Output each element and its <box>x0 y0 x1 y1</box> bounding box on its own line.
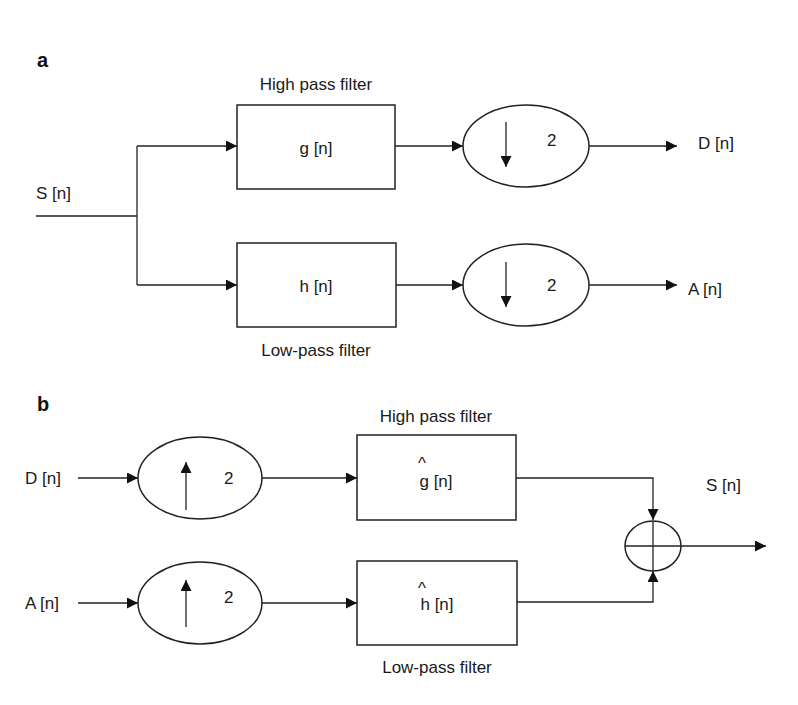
panel-b-reconstruction: b High pass filter D [n] A [n] 2 2 ^ g [… <box>25 393 766 677</box>
high-pass-caption-a: High pass filter <box>260 75 373 94</box>
detail-input-label: D [n] <box>25 469 61 488</box>
upsample-factor-top: 2 <box>224 469 233 488</box>
panel-a-label: a <box>37 49 49 71</box>
reconstructed-output-label: S [n] <box>706 476 741 495</box>
upsample-factor-bottom: 2 <box>224 588 233 607</box>
approx-output-label: A [n] <box>688 280 722 299</box>
low-pass-caption-b: Low-pass filter <box>382 658 492 677</box>
panel-b-label: b <box>37 393 49 415</box>
downsample-factor-bottom: 2 <box>547 276 556 295</box>
h-filter-label: h [n] <box>299 277 332 296</box>
upsampler-top: 2 <box>138 437 262 519</box>
detail-output-label: D [n] <box>698 134 734 153</box>
g-filter-label: g [n] <box>299 139 332 158</box>
approx-input-label: A [n] <box>25 594 59 613</box>
low-pass-caption-a: Low-pass filter <box>261 341 371 360</box>
downsampler-top: 2 <box>463 105 589 187</box>
adder-icon <box>625 521 681 571</box>
input-signal-label-a: S [n] <box>36 184 71 203</box>
upsampler-bottom: 2 <box>138 562 262 644</box>
downsample-factor-top: 2 <box>547 131 556 150</box>
g-hat-to-summer-line <box>516 478 653 520</box>
hat-accent: ^ <box>418 454 426 473</box>
downsampler-bottom: 2 <box>463 244 589 326</box>
high-pass-caption-b: High pass filter <box>380 407 493 426</box>
h-hat-to-summer-line <box>517 571 653 602</box>
h-hat-filter-label: h [n] <box>420 595 453 614</box>
g-hat-filter-label: g [n] <box>419 472 452 491</box>
wavelet-filter-bank-diagram: a High pass filter S [n] g [n] h [n] Low… <box>0 0 798 705</box>
panel-a-decomposition: a High pass filter S [n] g [n] h [n] Low… <box>36 49 734 360</box>
